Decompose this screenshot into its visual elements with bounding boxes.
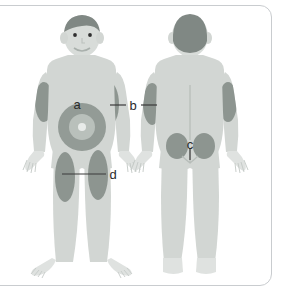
front-hand-left (23, 151, 44, 173)
front-foot-right (107, 258, 132, 278)
site-patch-buttock-right (193, 133, 215, 159)
site-patch-thigh-front-right (88, 150, 108, 200)
back-foot-right (196, 258, 216, 274)
site-abdomen-target (58, 103, 106, 151)
label-d: d (109, 167, 116, 182)
target-center-dot (78, 123, 86, 131)
label-c: c (187, 137, 194, 152)
anatomy-diagram: a b c d (0, 0, 286, 299)
label-a: a (73, 97, 81, 112)
front-foot-left (31, 258, 56, 278)
front-ear-right (96, 32, 104, 44)
front-eye-left (73, 33, 77, 37)
back-hand-right (227, 151, 248, 173)
label-b: b (129, 98, 136, 113)
back-hair (173, 14, 207, 53)
back-hand-left (131, 151, 152, 173)
front-eye-right (88, 33, 92, 37)
body-diagram-figure: a b c d (0, 0, 286, 299)
back-leg-left (161, 150, 188, 262)
back-leg-right (192, 150, 219, 262)
front-ear-left (60, 32, 68, 44)
site-patch-buttock-left (166, 133, 188, 159)
back-foot-left (163, 258, 183, 274)
site-patch-thigh-front-left (55, 152, 75, 202)
front-view-body (23, 15, 140, 278)
